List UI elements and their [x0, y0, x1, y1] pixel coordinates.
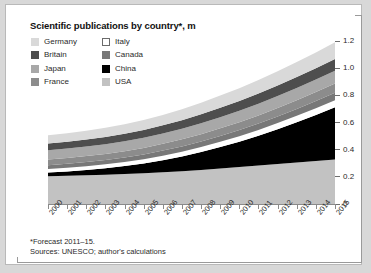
stacked-area-plot	[48, 41, 335, 204]
y-tick-label: 0.6	[343, 118, 354, 128]
y-tick-label: 1.0	[343, 63, 354, 73]
legend-swatch-icon	[31, 51, 39, 59]
y-tick-mark	[335, 176, 340, 177]
chart-card: Scientific publications by country*, m G…	[12, 11, 355, 257]
y-tick-mark	[335, 122, 340, 123]
y-tick-mark	[335, 68, 340, 69]
y-tick-label: 0.8	[343, 90, 354, 100]
plot-area	[48, 41, 335, 204]
y-tick-mark	[335, 41, 340, 42]
y-axis: 00.20.40.60.81.01.2	[335, 35, 367, 211]
y-tick-label: 0.4	[343, 145, 354, 155]
y-tick-mark	[335, 149, 340, 150]
y-tick-mark	[335, 95, 340, 96]
y-tick-label: 1.2	[343, 36, 354, 46]
legend-swatch-icon	[31, 65, 39, 73]
legend-swatch-icon	[31, 38, 39, 46]
footnote-line: *Forecast 2011–15.	[30, 237, 330, 247]
footnote-line: Sources: UNESCO; author's calculations	[30, 247, 330, 257]
footnotes: *Forecast 2011–15.Sources: UNESCO; autho…	[30, 237, 330, 257]
legend-swatch-icon	[31, 78, 39, 86]
y-tick-label: 0.2	[343, 172, 354, 182]
chart-title: Scientific publications by country*, m	[30, 20, 196, 31]
